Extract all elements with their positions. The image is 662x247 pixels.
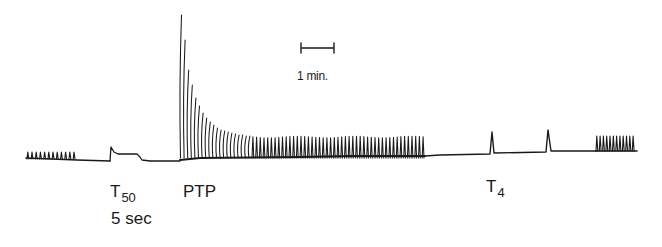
t50-duration-label: 5 sec xyxy=(111,210,152,227)
ptp-twitches xyxy=(180,15,424,158)
t50-subscript: 50 xyxy=(121,190,135,205)
myogram-figure: T50 5 sec PTP T4 1 min. xyxy=(0,0,662,247)
t4-main: T xyxy=(486,177,496,196)
t50-main: T xyxy=(110,182,120,201)
baseline xyxy=(26,158,110,161)
scale-bar-label: 1 min. xyxy=(297,70,328,82)
t50-tetanus xyxy=(110,147,180,161)
t4-label: T4 xyxy=(486,178,505,195)
scale-bar xyxy=(301,43,334,53)
t50-label: T50 xyxy=(110,183,136,200)
ptp-label: PTP xyxy=(183,183,216,200)
recovery-twitches xyxy=(596,136,634,151)
t4-baseline xyxy=(425,130,596,156)
twitch-tension-trace xyxy=(0,0,662,247)
t4-subscript: 4 xyxy=(497,185,504,200)
